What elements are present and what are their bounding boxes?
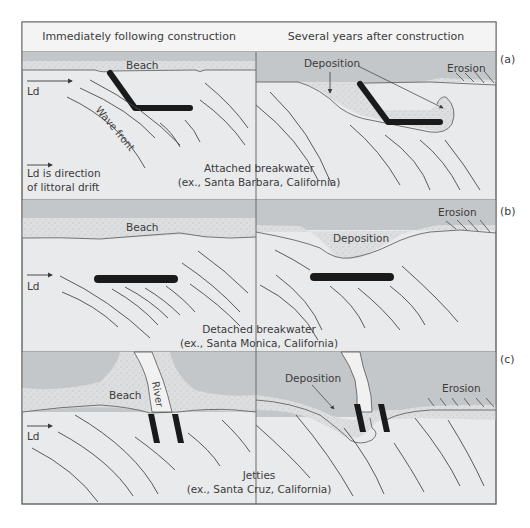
- caption-b-line2: (ex., Santa Monica, California): [180, 337, 338, 349]
- erosion-label-b: Erosion: [438, 206, 477, 218]
- panel-a-tag: (a): [500, 53, 515, 66]
- drift-label-c: Ld: [27, 430, 40, 442]
- beach-label-c: Beach: [109, 389, 142, 401]
- caption-a-line2: (ex., Santa Barbara, California): [178, 176, 341, 188]
- beach-label-a: Beach: [126, 59, 159, 71]
- caption-b-line1: Detached breakwater: [202, 323, 316, 335]
- drift-label-b: Ld: [27, 280, 40, 292]
- coastal-structures-diagram: Wave front: [0, 0, 530, 528]
- legend-line1: Ld is direction: [27, 167, 101, 179]
- deposition-label-c: Deposition: [285, 372, 341, 384]
- header-right-column: Several years after construction: [288, 30, 465, 43]
- deposition-label-a: Deposition: [304, 57, 360, 69]
- erosion-label-c: Erosion: [442, 382, 481, 394]
- caption-a-line1: Attached breakwater: [204, 162, 314, 174]
- erosion-label-a: Erosion: [447, 62, 486, 74]
- deposition-label-b: Deposition: [333, 232, 389, 244]
- panel-b-tag: (b): [500, 205, 516, 218]
- legend-line2: of littoral drift: [27, 181, 100, 193]
- header-left-column: Immediately following construction: [42, 30, 236, 43]
- beach-label-b: Beach: [126, 221, 159, 233]
- caption-c-line1: Jetties: [243, 469, 276, 481]
- drift-label-a: Ld: [27, 85, 40, 97]
- caption-c-line2: (ex., Santa Cruz, California): [187, 483, 332, 495]
- panel-c-tag: (c): [500, 353, 515, 366]
